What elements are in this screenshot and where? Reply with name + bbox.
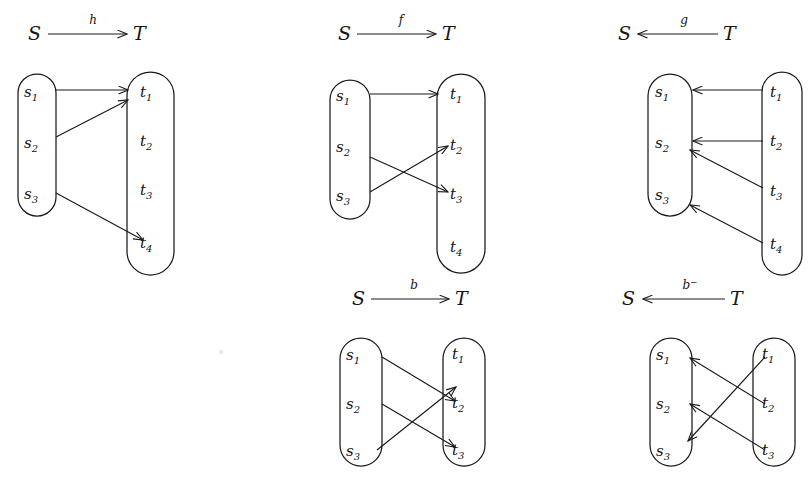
paper-speck <box>219 350 223 354</box>
figure-canvas: S h T s1 s2 s3 t1 t2 t3 <box>0 0 810 494</box>
panel-f-edge-s3-t2 <box>370 146 448 192</box>
panel-h-header: S h T <box>28 13 147 44</box>
panel-g-header-source: S <box>618 22 631 44</box>
panel-b-inverse-header-target: T <box>730 287 744 309</box>
panel-f-map-label: f <box>398 13 406 27</box>
set-mapping-figure: S h T s1 s2 s3 t1 t2 t3 <box>0 0 810 494</box>
panel-h-header-source: S <box>28 22 41 44</box>
panel-h-header-target: T <box>133 22 147 44</box>
panel-b-inverse: S b− T s1 s2 s3 t1 t2 <box>622 277 795 466</box>
panel-b-inverse-header: S b− T <box>622 277 744 309</box>
panel-b-header: S b T <box>352 278 469 309</box>
panel-b-header-source: S <box>352 287 365 309</box>
panel-f: S f T s1 s2 s3 t1 t2 t3 <box>330 13 485 273</box>
panel-b-inverse-header-source: S <box>622 287 635 309</box>
panel-b: S b T s1 s2 s3 t1 t2 t3 <box>340 278 485 466</box>
panel-h-map-label: h <box>89 13 97 27</box>
panel-g-header: S g T <box>618 13 737 44</box>
panel-b-map-label: b <box>410 278 418 292</box>
panel-h: S h T s1 s2 s3 t1 t2 t3 <box>18 13 174 275</box>
panel-f-header-source: S <box>338 22 351 44</box>
panel-g-edge-t4-s3 <box>690 205 763 243</box>
panel-f-edge-s2-t3 <box>370 157 448 192</box>
panel-g-map-label: g <box>680 13 688 27</box>
panel-b-header-target: T <box>455 287 469 309</box>
panel-f-header-target: T <box>442 22 456 44</box>
panel-g-header-target: T <box>723 22 737 44</box>
panel-h-edge-s2-t1 <box>56 100 128 137</box>
panel-f-header: S f T <box>338 13 456 44</box>
panel-b-inverse-map-label: b− <box>682 277 697 292</box>
panel-g-edge-t3-s2 <box>690 150 763 188</box>
panel-g: S g T s1 s2 s3 t1 t2 t3 <box>618 13 802 275</box>
